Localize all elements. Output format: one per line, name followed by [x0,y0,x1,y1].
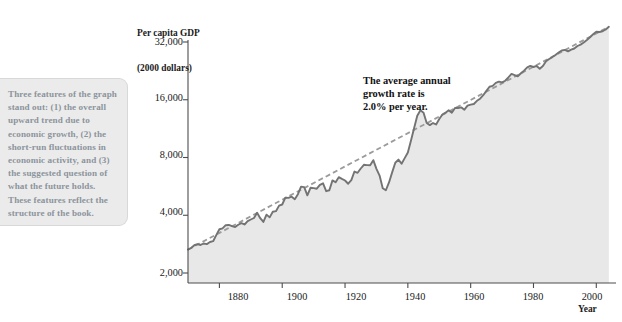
y-tick-label-2000: 2,000 [139,267,183,278]
area-fill [188,27,609,283]
x-tick-label-1940: 1940 [393,291,437,302]
x-axis-title: Year [578,304,597,314]
chart-canvas [0,0,622,322]
y-tick-label-32000: 32,000 [139,36,183,47]
x-tick-label-1900: 1900 [275,291,319,302]
x-tick-label-1980: 1980 [511,291,555,302]
chart-figure: Per capita GDP (2000 dollars) 32,000 16,… [0,0,622,322]
x-tick-label-2000: 2000 [570,291,614,302]
y-tick-label-4000: 4,000 [139,206,183,217]
y-tick-label-8000: 8,000 [139,149,183,160]
x-tick-label-1920: 1920 [334,291,378,302]
y-axis-title: Per capita GDP (2000 dollars) [137,5,200,98]
growth-rate-annotation: The average annual growth rate is 2.0% p… [363,74,451,114]
x-tick-label-1960: 1960 [452,291,496,302]
y-axis-title-line2: (2000 dollars) [137,63,200,75]
y-tick-label-16000: 16,000 [139,92,183,103]
x-tick-label-1880: 1880 [216,291,260,302]
